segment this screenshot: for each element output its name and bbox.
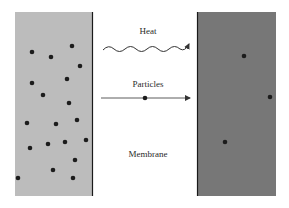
particles-label: Particles xyxy=(133,79,164,89)
heat-wave-arrow xyxy=(103,44,189,52)
particle xyxy=(30,81,35,86)
particle xyxy=(242,54,247,59)
particle xyxy=(73,158,78,163)
particle xyxy=(67,101,72,106)
diffusion-diagram: Heat Particles Membrane xyxy=(0,0,289,208)
particle xyxy=(71,176,76,181)
particle xyxy=(16,176,21,181)
particle xyxy=(41,93,46,98)
particle xyxy=(63,140,68,145)
particle xyxy=(70,44,75,49)
particle xyxy=(75,118,80,123)
moving-particle xyxy=(143,96,148,101)
particle xyxy=(84,138,89,143)
particle xyxy=(223,140,228,145)
membrane-label: Membrane xyxy=(129,149,168,159)
particle xyxy=(49,55,54,60)
particle xyxy=(30,50,35,55)
particle xyxy=(54,122,59,127)
particle xyxy=(46,142,51,147)
particle xyxy=(51,168,56,173)
particle xyxy=(25,121,30,126)
particle xyxy=(268,95,273,100)
heat-label: Heat xyxy=(140,26,157,36)
particle xyxy=(78,64,83,69)
particle xyxy=(28,146,33,151)
right-chamber xyxy=(197,12,276,196)
particle xyxy=(65,77,70,82)
